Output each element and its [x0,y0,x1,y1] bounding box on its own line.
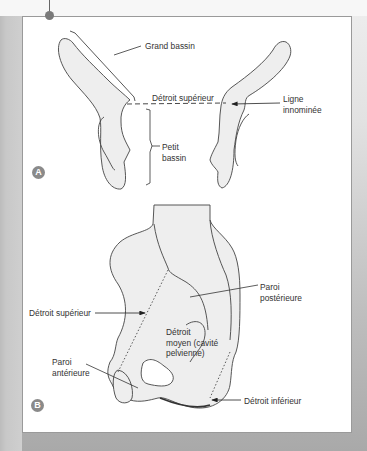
label-detroit-superieur-b: Détroit supérieur [29,308,91,319]
label-paroi-anterieure: Paroi antérieure [52,357,90,378]
panel-a-badge: A [32,166,45,179]
left-hip-bone-a [58,39,130,190]
panel-b-badge: B [31,399,44,412]
label-detroit-moyen: Détroit moyen (cavité pelvienne) [166,327,218,359]
label-detroit-inferieur: Détroit inférieur [244,396,301,407]
label-ligne-innominee: Ligne innominée [283,94,322,115]
pelvis-illustration [0,0,367,451]
label-detroit-superieur-a: Détroit supérieur [152,93,214,104]
label-petit-bassin: Petit bassin [162,142,186,163]
right-hip-bone-a [210,41,291,188]
label-paroi-posterieure: Paroi postérieure [260,282,302,303]
label-grand-bassin: Grand bassin [145,41,195,52]
pelvis-lateral-view-b [108,205,240,408]
